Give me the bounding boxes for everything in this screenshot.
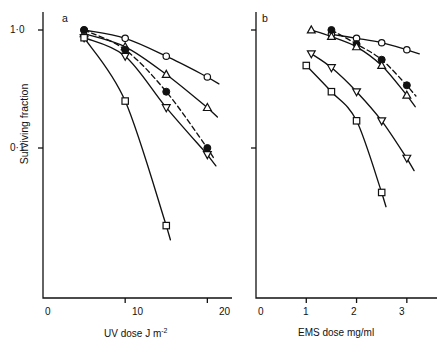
panel-a-marker-filled-circle-0 xyxy=(81,27,88,34)
y-axis-title: Surviving fraction xyxy=(18,64,30,184)
generated-plot-layer xyxy=(38,12,437,303)
panel-a-xtick-10: 10 xyxy=(132,306,143,317)
panel-label-a: a xyxy=(62,12,68,24)
y-tick-label-0.1: 0·1 xyxy=(10,142,24,153)
panel-b-marker-filled-circle-3 xyxy=(403,82,410,89)
panel-b-marker-open-circle-2 xyxy=(378,40,384,46)
figure-container: Surviving fraction 1·0 0·1 a b 0 10 20 U… xyxy=(0,0,439,348)
panel-b-x-axis-title: EMS dose mg/ml xyxy=(298,327,374,338)
panel-b-marker-open-triangle-up-0 xyxy=(307,26,315,33)
panel-a-marker-open-circle-1 xyxy=(122,35,128,41)
panel-a-marker-open-triangle-up-2 xyxy=(162,70,170,77)
panel-a-xtick-20: 20 xyxy=(219,306,230,317)
panel-b-marker-open-square-0 xyxy=(303,62,309,68)
panel-a-marker-open-square-0 xyxy=(81,35,87,41)
panel-b-marker-open-triangle-down-0 xyxy=(307,51,315,58)
panel-a-x-axis-title: UV dose J m-2 xyxy=(104,327,167,339)
panel-b-marker-open-square-3 xyxy=(378,189,384,195)
panel-a-xtick-0: 0 xyxy=(45,306,51,317)
survival-curve-figure xyxy=(0,0,439,348)
panel-label-b: b xyxy=(262,12,268,24)
panel-b-marker-open-square-1 xyxy=(328,88,334,94)
panel-a-marker-filled-circle-3 xyxy=(204,145,211,152)
panel-a-marker-filled-circle-1 xyxy=(122,46,129,53)
panel-b-marker-open-circle-3 xyxy=(404,47,410,53)
y-tick-label-1: 1·0 xyxy=(10,24,24,35)
panel-a-marker-open-square-1 xyxy=(122,98,128,104)
panel-b-marker-open-triangle-down-4 xyxy=(403,155,411,162)
panel-a-curve-open-triangle-up xyxy=(84,34,217,117)
panel-b-xtick-2: 2 xyxy=(351,306,357,317)
panel-b-curve-open-square xyxy=(306,66,386,207)
panel-a-marker-open-square-2 xyxy=(163,222,169,228)
panel-b-marker-open-square-2 xyxy=(353,118,359,124)
panel-a-curve-open-triangle-down xyxy=(84,38,216,166)
panel-b-xtick-1: 1 xyxy=(303,306,309,317)
panel-a-marker-open-circle-3 xyxy=(204,74,210,80)
panel-b-curve-open-triangle-up xyxy=(311,30,415,107)
panel-a-marker-open-circle-2 xyxy=(163,53,169,59)
panel-b-xtick-0: 0 xyxy=(258,306,264,317)
panel-a-x-axis-title-exponent: -2 xyxy=(161,327,167,334)
panel-a-axis-frame xyxy=(43,12,232,298)
panel-a-marker-filled-circle-2 xyxy=(163,88,170,95)
panel-a-x-axis-title-text: UV dose J m xyxy=(104,328,161,339)
panel-b-curve-open-triangle-down xyxy=(311,54,414,171)
panel-b-xtick-3: 3 xyxy=(399,306,405,317)
